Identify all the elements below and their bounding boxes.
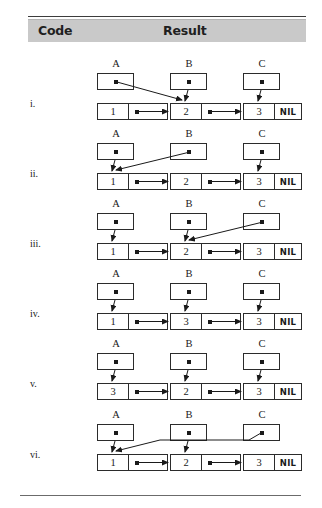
pointer-target-arrow	[112, 160, 115, 171]
list-node: 1	[97, 173, 168, 190]
node-next-pointer-cell	[128, 244, 167, 259]
table-header-bar: Code Result	[28, 19, 306, 42]
pointer-target-arrow	[112, 370, 115, 381]
list-node: 1	[97, 454, 168, 471]
node-value-cell: 2	[171, 455, 201, 470]
node-next-pointer-cell	[128, 104, 167, 119]
pointer-dot-icon	[114, 290, 118, 294]
pointer-dot-icon	[208, 250, 212, 254]
pointer-variable-box	[170, 424, 207, 441]
node-next-pointer-cell	[201, 384, 240, 399]
list-node: 2	[170, 243, 241, 260]
node-next-pointer-cell	[201, 104, 240, 119]
node-next-pointer-cell	[128, 174, 167, 189]
node-next-pointer-cell	[128, 384, 167, 399]
pointer-dot-icon	[135, 320, 139, 324]
node-value-cell: 3	[244, 314, 274, 329]
pointer-dot-icon	[208, 110, 212, 114]
pointer-dot-icon	[260, 431, 264, 435]
pointer-target-arrow	[112, 300, 115, 311]
pointer-variable-box	[97, 213, 134, 230]
diagram-row: ii.ABC123NIL	[0, 125, 322, 195]
node-next-pointer-cell	[128, 455, 167, 470]
pointer-target-arrow	[258, 370, 261, 381]
pointer-variable-name: B	[170, 128, 208, 139]
node-nil-cell: NIL	[274, 244, 301, 259]
row-label: i.	[30, 98, 35, 109]
pointer-variable-name: C	[243, 268, 281, 279]
pointer-variable-box	[97, 283, 134, 300]
node-value-cell: 3	[244, 174, 274, 189]
pointer-variable-name: C	[243, 409, 281, 420]
pointer-target-arrow	[185, 441, 188, 452]
node-next-pointer-cell	[201, 244, 240, 259]
pointer-variable-box	[243, 213, 280, 230]
pointer-target-arrow	[258, 160, 261, 171]
node-nil-cell: NIL	[274, 384, 301, 399]
list-node: 3NIL	[243, 383, 302, 400]
list-node: 3	[170, 313, 241, 330]
pointer-dot-icon	[187, 80, 191, 84]
pointer-dot-icon	[135, 110, 139, 114]
list-node: 3NIL	[243, 173, 302, 190]
pointer-dot-icon	[208, 180, 212, 184]
linked-list-diagram: ABC123NIL	[88, 195, 308, 265]
linked-list-diagram: ABC123NIL	[88, 55, 308, 125]
row-label: iv.	[30, 308, 40, 319]
linked-list-diagram: ABC123NIL	[88, 125, 308, 195]
header-top-rule	[28, 16, 306, 17]
node-nil-cell: NIL	[274, 455, 301, 470]
pointer-variable-box	[243, 283, 280, 300]
node-value-cell: 2	[171, 384, 201, 399]
pointer-target-arrow	[112, 230, 115, 241]
pointer-variable-box	[97, 73, 134, 90]
pointer-variable-box	[170, 143, 207, 160]
list-node: 2	[170, 173, 241, 190]
pointer-dot-icon	[114, 150, 118, 154]
diagram-row: vi.ABC123NIL	[0, 406, 322, 476]
list-node: 2	[170, 103, 241, 120]
pointer-dot-icon	[135, 250, 139, 254]
pointer-variable-name: A	[97, 198, 135, 209]
row-label: v.	[30, 378, 37, 389]
pointer-dot-icon	[208, 461, 212, 465]
list-node: 3NIL	[243, 103, 302, 120]
linked-list-diagram: ABC133NIL	[88, 265, 308, 335]
node-nil-cell: NIL	[274, 104, 301, 119]
row-label: iii.	[30, 238, 41, 249]
pointer-dot-icon	[260, 80, 264, 84]
pointer-variable-box	[243, 353, 280, 370]
pointer-variable-name: A	[97, 128, 135, 139]
node-value-cell: 3	[244, 384, 274, 399]
footer-rule	[20, 495, 301, 496]
pointer-target-arrow	[112, 441, 115, 452]
linked-list-diagram: ABC323NIL	[88, 335, 308, 405]
pointer-dot-icon	[260, 220, 264, 224]
column-header-result: Result	[163, 22, 207, 40]
pointer-variable-box	[170, 73, 207, 90]
node-value-cell: 2	[171, 174, 201, 189]
pointer-dot-icon	[187, 220, 191, 224]
pointer-variable-name: B	[170, 268, 208, 279]
node-value-cell: 1	[98, 244, 128, 259]
pointer-variable-name: B	[170, 338, 208, 349]
node-nil-cell: NIL	[274, 174, 301, 189]
list-node: 3NIL	[243, 243, 302, 260]
row-label: ii.	[30, 168, 38, 179]
node-value-cell: 3	[244, 455, 274, 470]
pointer-dot-icon	[260, 290, 264, 294]
column-header-code: Code	[38, 22, 72, 40]
pointer-target-arrow	[185, 300, 188, 311]
node-value-cell: 1	[98, 174, 128, 189]
node-next-pointer-cell	[128, 314, 167, 329]
pointer-target-arrow	[258, 90, 261, 101]
diagram-row: i.ABC123NIL	[0, 55, 322, 125]
node-value-cell: 3	[98, 384, 128, 399]
node-next-pointer-cell	[201, 174, 240, 189]
node-value-cell: 1	[98, 314, 128, 329]
pointer-variable-name: C	[243, 338, 281, 349]
pointer-dot-icon	[114, 360, 118, 364]
list-node: 1	[97, 243, 168, 260]
list-node: 3NIL	[243, 313, 302, 330]
diagram-row: iii.ABC123NIL	[0, 195, 322, 265]
